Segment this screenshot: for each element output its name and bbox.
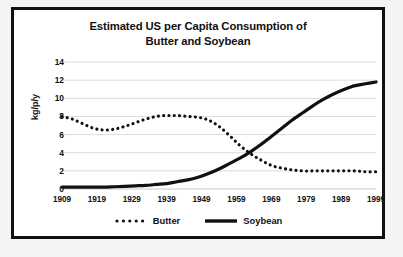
- soybean-legend-swatch: [204, 217, 238, 225]
- butter-legend-swatch: [114, 217, 148, 225]
- chart-legend: Butter Soybean: [14, 215, 382, 226]
- x-tick-label: 1979: [297, 195, 315, 204]
- x-tick-label: 1989: [332, 195, 350, 204]
- chart-container: Estimated US per Capita Consumption of B…: [11, 7, 385, 239]
- x-tick-label: 1919: [88, 195, 106, 204]
- x-tick-label: 1969: [262, 195, 280, 204]
- legend-item-butter[interactable]: Butter: [114, 215, 181, 226]
- x-tick-label: 1939: [158, 195, 176, 204]
- x-tick-label: 1949: [192, 195, 210, 204]
- x-tick-label: 1959: [227, 195, 245, 204]
- legend-item-soybean[interactable]: Soybean: [204, 215, 282, 226]
- x-tick-label: 1909: [53, 195, 71, 204]
- legend-label-butter: Butter: [153, 215, 181, 226]
- legend-label-soybean: Soybean: [243, 215, 282, 226]
- x-axis-ticks: 1909191919291939194919591969197919891999: [14, 10, 382, 236]
- x-tick-label: 1929: [123, 195, 141, 204]
- x-tick-label: 1999: [367, 195, 385, 204]
